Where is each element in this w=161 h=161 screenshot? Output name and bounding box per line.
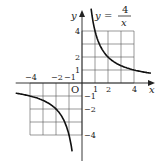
y-tick-label: 2 — [75, 53, 80, 62]
equation-equals: = — [104, 10, 112, 21]
y-arrow-icon — [79, 10, 85, 17]
y-tick-label: 1 — [75, 66, 80, 75]
x-tick-label: 4 — [132, 85, 137, 94]
x-tick-label: −4 — [25, 73, 37, 82]
y-axis-label: y — [70, 10, 77, 21]
y-tick-label: 4 — [75, 27, 80, 36]
y-tick-label: −1 — [84, 92, 96, 101]
equation-denominator: x — [121, 17, 127, 28]
y-tick-label: −2 — [84, 105, 96, 114]
hyperbola-chart: −4−2−1124421−1−2−4 y x O y = 4 x — [0, 0, 161, 161]
equation-lhs: y — [94, 10, 101, 21]
equation-label: y = 4 x — [94, 4, 131, 28]
x-tick-label: 2 — [106, 85, 111, 94]
x-tick-label: −2 — [51, 73, 63, 82]
equation-numerator: 4 — [122, 4, 128, 15]
x-axis-label: x — [149, 84, 155, 95]
y-tick-label: −4 — [84, 131, 96, 140]
origin-label: O — [71, 84, 79, 95]
